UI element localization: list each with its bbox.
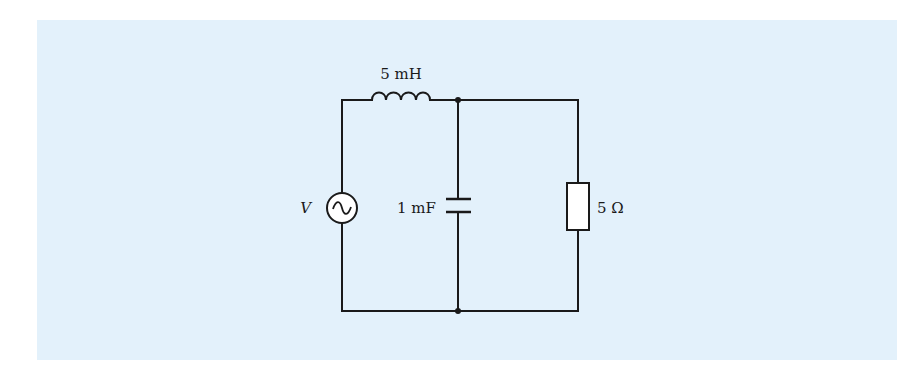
inductor-label: 5 mH (380, 65, 422, 83)
junction-bottom (455, 308, 461, 314)
wire-bottom (458, 230, 578, 311)
resistor-label: 5 Ω (597, 199, 624, 217)
inductor-icon (372, 93, 430, 101)
capacitor-icon (446, 199, 471, 212)
junction-top (455, 97, 461, 103)
source-label: V (300, 199, 313, 217)
wire-left-top (342, 100, 372, 193)
ac-source-icon (327, 193, 357, 223)
wire-top (430, 100, 578, 183)
resistor-icon (567, 183, 589, 230)
circuit-diagram: 5 mH V 1 mF 5 Ω (0, 0, 897, 383)
wire-left-bottom (342, 223, 458, 311)
capacitor-label: 1 mF (397, 199, 436, 217)
